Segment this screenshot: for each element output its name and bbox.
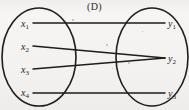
node-label-y2: y2: [168, 53, 176, 64]
node-label-y3: y3: [168, 88, 176, 99]
edge-x2-y2: [33, 46, 165, 58]
mapping-edges: [33, 23, 165, 93]
node-label-y1: y1: [168, 18, 176, 29]
node-label-x4: x4: [21, 87, 29, 98]
node-label-x1: x1: [21, 18, 29, 29]
node-label-x3: x3: [21, 64, 29, 75]
mapping-diagram: (D) x1x2x3x4y1y2y3: [0, 0, 189, 110]
node-label-x2: x2: [21, 41, 29, 52]
edge-x3-y2: [33, 58, 165, 69]
